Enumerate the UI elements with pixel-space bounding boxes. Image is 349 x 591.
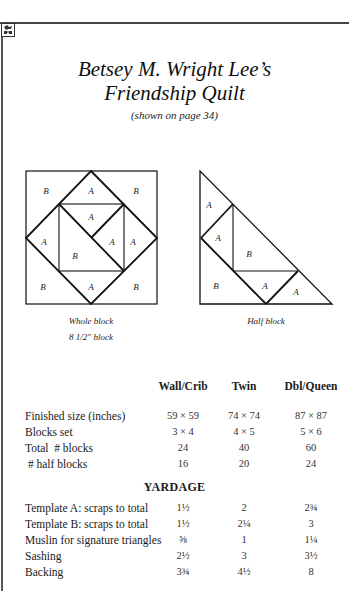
yardage-table: Template A: scraps to total 1½ 2 2¾ Temp… xyxy=(0,0,349,591)
cell-value: 2¼ xyxy=(218,518,270,529)
cell-value: 1½ xyxy=(155,518,211,529)
cell-value: 3½ xyxy=(280,550,342,561)
cell-value: 2½ xyxy=(155,550,211,561)
row-label: Template B: scraps to total xyxy=(25,518,148,530)
row-label: Template A: scraps to total xyxy=(25,502,148,514)
yardage-row: Template B: scraps to total 1½ 2¼ 3 xyxy=(0,518,349,533)
row-label: Backing xyxy=(25,566,63,578)
yardage-row: Sashing 2½ 3 3½ xyxy=(0,550,349,565)
cell-value: 3¾ xyxy=(155,566,211,577)
cell-value: 1¼ xyxy=(280,534,342,545)
cell-value: 2 xyxy=(218,502,270,513)
yardage-row: Muslin for signature triangles ⅝ 1 1¼ xyxy=(0,534,349,549)
cell-value: 1½ xyxy=(155,502,211,513)
yardage-row: Template A: scraps to total 1½ 2 2¾ xyxy=(0,502,349,517)
cell-value: 2¾ xyxy=(280,502,342,513)
cell-value: 4½ xyxy=(218,566,270,577)
cell-value: 8 xyxy=(280,566,342,577)
cell-value: 1 xyxy=(218,534,270,545)
cell-value: 3 xyxy=(218,550,270,561)
row-label: Muslin for signature triangles xyxy=(25,534,161,546)
cell-value: ⅝ xyxy=(155,534,211,545)
yardage-row: Backing 3¾ 4½ 8 xyxy=(0,566,349,581)
cell-value: 3 xyxy=(280,518,342,529)
row-label: Sashing xyxy=(25,550,61,562)
